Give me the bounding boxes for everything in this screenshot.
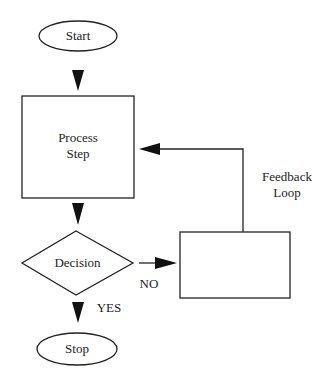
process-label-line2: Step xyxy=(22,146,134,162)
decision-label: Decision xyxy=(22,255,133,271)
feedback-box-shape xyxy=(180,232,290,298)
yes-label: YES xyxy=(94,300,124,316)
feedback-loop-line xyxy=(158,149,243,232)
arrow-yes-to-stop xyxy=(72,302,84,323)
feedback-label-line2: Loop xyxy=(255,185,319,201)
no-label: NO xyxy=(136,276,162,292)
feedback-label-line1: Feedback xyxy=(255,169,319,185)
start-label: Start xyxy=(39,28,117,44)
stop-label: Stop xyxy=(37,341,117,357)
process-label-line1: Process xyxy=(22,130,134,146)
flowchart-canvas: Start Process Step Decision NO YES Stop … xyxy=(0,0,328,387)
feedback-arrow-head xyxy=(139,143,160,155)
arrow-down-to-decision xyxy=(72,203,84,225)
no-arrow-head xyxy=(155,257,177,269)
arrow-start-to-process xyxy=(72,70,84,91)
